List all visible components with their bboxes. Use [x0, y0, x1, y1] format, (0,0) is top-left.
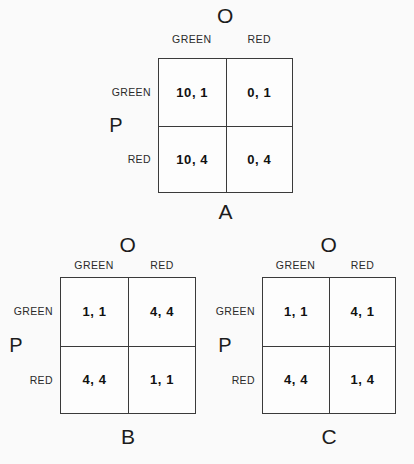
payoff-matrix-c: O GREEN RED GREEN RED P 1, 1 4, 1 4, 4 1…	[207, 0, 414, 464]
payoff-cell-green-red-c: 4, 1	[329, 278, 395, 346]
payoff-cell-red-green-b: 4, 4	[61, 346, 128, 414]
column-headers-c: GREEN RED	[262, 259, 396, 271]
matrix-caption-b: B	[60, 426, 196, 447]
column-header-green-b: GREEN	[60, 259, 128, 271]
column-header-red-b: RED	[128, 259, 196, 271]
column-player-label-b: O	[60, 234, 196, 255]
column-headers-b: GREEN RED	[60, 259, 196, 271]
payoff-cell-green-red-b: 4, 4	[128, 278, 195, 346]
payoff-matrix-b: O GREEN RED GREEN RED P 1, 1 4, 4 4, 4 1…	[0, 0, 207, 464]
row-player-label-b: P	[4, 335, 28, 355]
matrix-caption-c: C	[262, 426, 396, 447]
column-header-red-c: RED	[329, 259, 396, 271]
row-player-label-c: P	[213, 335, 237, 355]
payoff-cell-red-red-b: 1, 1	[128, 346, 195, 414]
row-header-red-c: RED	[205, 346, 262, 415]
column-player-label-c: O	[262, 234, 396, 255]
payoff-cell-red-green-c: 4, 4	[263, 346, 329, 414]
payoff-cell-green-green-b: 1, 1	[61, 278, 128, 346]
payoff-grid-c: 1, 1 4, 1 4, 4 1, 4	[262, 277, 396, 414]
payoff-cell-red-red-c: 1, 4	[329, 346, 395, 414]
payoff-cell-green-green-c: 1, 1	[263, 278, 329, 346]
payoff-grid-b: 1, 1 4, 4 4, 4 1, 1	[60, 277, 196, 414]
column-header-green-c: GREEN	[262, 259, 329, 271]
